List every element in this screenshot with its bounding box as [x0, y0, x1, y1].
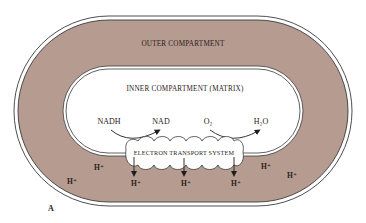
- reaction-reactant-nadh: NADH: [97, 117, 120, 126]
- reaction-product-nad: NAD: [152, 117, 170, 126]
- outer-proton-label: H⁺: [261, 162, 271, 171]
- ets-label: ELECTRON TRANSPORT SYSTEM: [134, 149, 235, 156]
- outer-proton-label: H⁺: [94, 163, 104, 172]
- reaction-product-h2o: H₂O: [254, 117, 269, 126]
- ets-proton-label: H⁺: [231, 179, 241, 188]
- outer-proton-label: H⁺: [287, 171, 297, 180]
- inner-compartment-label: INNER COMPARTMENT (MATRIX): [127, 85, 244, 93]
- outer-proton-label: H⁺: [67, 177, 77, 186]
- reaction-reactant-o2: O₂: [204, 117, 213, 126]
- ets-proton-label: H⁺: [131, 179, 141, 188]
- mitochondrion-diagram: OUTER COMPARTMENT INNER COMPARTMENT (MAT…: [0, 0, 366, 223]
- panel-label: A: [48, 204, 54, 213]
- outer-compartment-label: OUTER COMPARTMENT: [141, 40, 225, 48]
- ets-proton-label: H⁺: [181, 179, 191, 188]
